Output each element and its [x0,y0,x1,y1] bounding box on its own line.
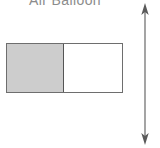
split-rectangle [6,43,123,93]
figure-canvas: Air Balloon [0,0,160,148]
rectangle-clear-half [64,44,122,92]
rectangle-shaded-half [7,44,64,92]
figure-title-clip: Air Balloon [0,0,130,9]
figure-title: Air Balloon [0,0,130,8]
vertical-double-arrow-icon [133,1,157,147]
